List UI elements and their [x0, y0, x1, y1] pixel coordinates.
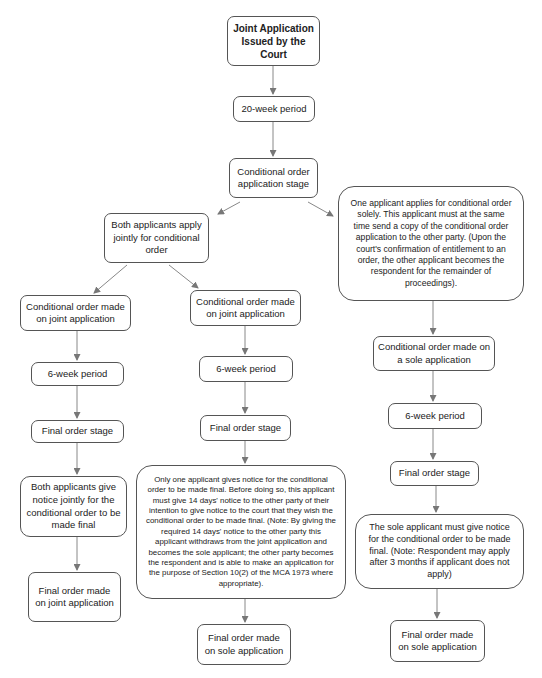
node-sole-application: One applicant applies for conditional or… — [338, 186, 524, 301]
node-mid-6-week-period: 6-week period — [199, 356, 293, 382]
node-right-final-order-stage: Final order stage — [390, 461, 479, 486]
node-joint-application-issued: Joint Application Issued by the Court — [227, 16, 320, 66]
node-mid-conditional-order-joint: Conditional order made on joint applicat… — [190, 290, 301, 326]
node-final-order-joint: Final order made on joint application — [28, 572, 121, 622]
node-left-6-week-period: 6-week period — [31, 362, 124, 386]
node-right-final-order-sole: Final order made on sole application — [390, 620, 485, 662]
node-mid-final-order-sole: Final order made on sole application — [197, 624, 291, 665]
node-left-final-order-stage: Final order stage — [31, 420, 124, 443]
node-conditional-order-sole: Conditional order made on a sole applica… — [373, 336, 495, 371]
node-left-conditional-order-joint: Conditional order made on joint applicat… — [20, 295, 131, 331]
node-both-apply-jointly: Both applicants apply jointly for condit… — [104, 213, 209, 263]
node-mid-final-order-stage: Final order stage — [200, 415, 291, 441]
node-both-give-notice: Both applicants give notice jointly for … — [20, 476, 127, 537]
node-sole-applicant-notice: The sole applicant must give notice for … — [355, 514, 524, 589]
node-20-week-period: 20-week period — [233, 96, 315, 122]
node-one-applicant-gives-notice: Only one applicant gives notice for the … — [136, 465, 346, 599]
node-right-6-week-period: 6-week period — [388, 403, 482, 429]
node-conditional-order-application-stage: Conditional order application stage — [229, 158, 318, 198]
